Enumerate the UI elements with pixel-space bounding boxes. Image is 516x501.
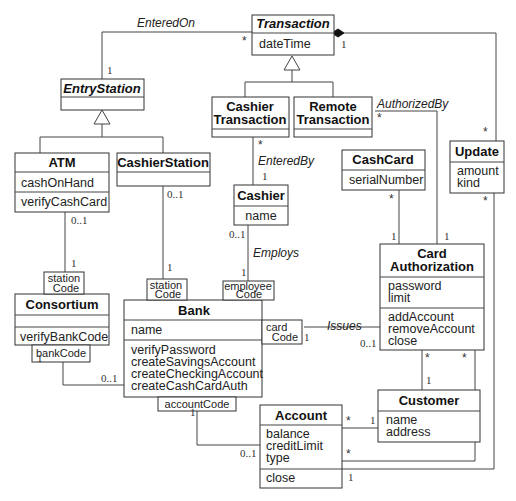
operation-close: close (266, 471, 295, 485)
multiplicity-cashiertransaction-enteredby: * (258, 138, 263, 152)
class-bank[interactable]: Bank name verifyPassword createSavingsAc… (124, 300, 264, 397)
class-cash-card[interactable]: CashCard serialNumber (342, 150, 425, 190)
multiplicity-account-update: 1 (348, 471, 354, 483)
class-consortium[interactable]: Consortium verifyBankCode (15, 294, 109, 345)
multiplicity-cashcard: * (389, 192, 394, 206)
class-name: CashierStation (117, 155, 209, 170)
gen-line-cashier-transaction (245, 70, 292, 97)
qualifier-bank-employee-code: employee Code (223, 280, 274, 300)
class-name-line2: Transaction (297, 112, 370, 127)
class-card-authorization[interactable]: Card Authorization password limit addAcc… (380, 244, 484, 350)
class-name: Transaction (256, 16, 330, 31)
class-customer[interactable]: Customer name address (378, 390, 480, 442)
qualifier-line2: Code (53, 282, 79, 294)
association-label-issues: Issues (327, 319, 362, 333)
qualifier-label: accountCode (165, 398, 230, 410)
qualifier-bank-account-code: accountCode (158, 397, 236, 411)
multiplicity-bank-issues: 1 (304, 331, 310, 343)
multiplicity-update-bottom: * (483, 194, 488, 208)
multiplicity-update-top: * (483, 125, 488, 139)
association-label-authorized-by: AuthorizedBy (376, 97, 449, 111)
attribute-address: address (386, 425, 430, 439)
multiplicity-cardauth-cashcard: 1 (391, 230, 397, 242)
attribute-name: name (131, 323, 162, 337)
generalization-triangle-icon (284, 56, 300, 70)
association-label-entered-on: EnteredOn (137, 16, 195, 30)
multiplicity-account-cardauth: * (346, 447, 351, 461)
attribute-type: type (266, 451, 290, 465)
gen-line-remote-transaction (292, 82, 333, 97)
class-name: ATM (48, 155, 75, 170)
multiplicity-bank-account: 1 (190, 406, 196, 418)
multiplicity-entrystation-enteredon: 1 (107, 64, 113, 76)
multiplicity-cashier-employs: 0..1 (229, 228, 246, 240)
multiplicity-customer-cardauth: 1 (426, 374, 432, 386)
qualifier-bank-card-code: card Code (262, 320, 302, 344)
multiplicity-consortium-bank: 1 (37, 352, 43, 364)
class-name: Consortium (26, 297, 99, 312)
class-name: Update (455, 144, 499, 159)
qualifier-label: bankCode (36, 347, 86, 359)
qualifier-bank-station-code: station Code (147, 279, 187, 300)
operation-verifybankcode: verifyBankCode (20, 330, 108, 344)
multiplicity-transaction-enteredon: * (242, 34, 247, 48)
class-name-line2: Authorization (390, 259, 474, 274)
operation-close: close (388, 334, 417, 348)
uml-class-diagram: Transaction dateTime EntryStation Cashie… (0, 0, 516, 501)
multiplicity-account-customer: * (346, 414, 351, 428)
bank-account-association (197, 410, 260, 445)
multiplicity-remote-authorizedby: * (377, 111, 382, 125)
class-name: Customer (399, 393, 460, 408)
class-entry-station[interactable]: EntryStation (61, 79, 144, 110)
class-cashier-transaction[interactable]: Cashier Transaction (212, 97, 289, 137)
class-name: Bank (178, 303, 211, 318)
multiplicity-cardauth-customer: * (425, 351, 430, 365)
multiplicity-customer-account: 1 (370, 414, 376, 426)
multiplicity-cardauth-issues: 0..1 (360, 337, 377, 349)
class-account[interactable]: Account balance creditLimit type close (260, 405, 342, 488)
class-cashier-station[interactable]: CashierStation (117, 153, 210, 186)
class-atm[interactable]: ATM cashOnHand verifyCashCard (15, 153, 109, 212)
gen-line-atm (40, 124, 102, 153)
class-name: EntryStation (63, 81, 140, 96)
multiplicity-transaction-composition: 1 (341, 38, 347, 50)
class-update[interactable]: Update amount kind (450, 141, 504, 193)
multiplicity-cardauth-account: * (462, 351, 467, 365)
operation-createcashcardauth: createCashCardAuth (131, 379, 248, 393)
multiplicity-cashierstation-bank: 0..1 (167, 188, 184, 200)
qualifier-line2: Code (236, 288, 262, 300)
class-remote-transaction[interactable]: Remote Transaction (294, 97, 372, 137)
class-name: Account (275, 408, 328, 423)
class-name-line2: Transaction (214, 112, 287, 127)
class-name: CashCard (352, 152, 413, 167)
attribute-name: name (245, 209, 276, 223)
attribute-cashonhand: cashOnHand (21, 176, 94, 190)
multiplicity-atm-consortium: 0..1 (71, 214, 88, 226)
multiplicity-bank-cashierstation: 1 (167, 261, 173, 273)
attribute-kind: kind (457, 176, 480, 190)
gen-line-cashier-station (102, 137, 163, 153)
attribute-serialnumber: serialNumber (349, 173, 423, 187)
multiplicity-account-bank: 0..1 (240, 447, 257, 459)
generalization-triangle-icon (94, 110, 110, 124)
association-label-employs: Employs (253, 246, 299, 260)
class-name: Cashier (237, 188, 285, 203)
multiplicity-cashier-enteredby: 1 (262, 170, 268, 182)
multiplicity-bank-consortium: 0..1 (101, 372, 118, 384)
operation-verifycashcard: verifyCashCard (21, 195, 107, 209)
attribute-datetime: dateTime (259, 37, 311, 51)
attribute-limit: limit (388, 291, 411, 305)
qualifier-line2: Code (155, 288, 181, 300)
class-transaction[interactable]: Transaction dateTime (252, 15, 334, 55)
entered-on-association (102, 32, 252, 79)
multiplicity-cardauth-authorizedby: 1 (444, 230, 450, 242)
qualifier-line2: Code (272, 331, 298, 343)
multiplicity-bank-employs: 1 (241, 266, 247, 278)
association-label-entered-by: EnteredBy (258, 154, 315, 168)
multiplicity-consortium-atm: 1 (71, 257, 77, 269)
qualifier-consortium-station-code: station Code (44, 272, 84, 294)
class-cashier[interactable]: Cashier name (234, 185, 288, 225)
